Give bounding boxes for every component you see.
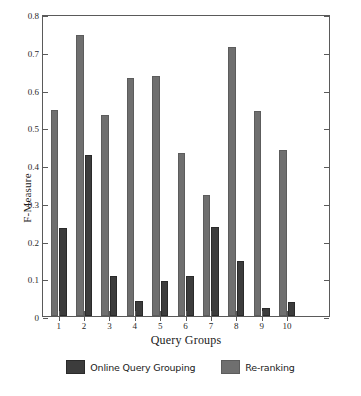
y-tick-label: 0.5 [28, 125, 39, 134]
y-tick-label: 0.3 [28, 200, 39, 209]
bar-online-query-grouping [110, 276, 118, 316]
bar-online-query-grouping [262, 308, 270, 316]
x-tick-label: 7 [209, 321, 214, 331]
x-tick-mark-top [211, 311, 212, 316]
x-tick-label: 2 [82, 321, 87, 331]
bar-re-ranking [279, 150, 287, 316]
y-tick-label: 0.4 [28, 163, 39, 172]
plot-area [43, 16, 329, 316]
plot-frame: 00.10.20.30.40.50.60.70.8 12345678910 [42, 15, 330, 317]
y-tick-label: 0.2 [28, 238, 39, 247]
bar-chart-figure: F-Measure 00.10.20.30.40.50.60.70.8 1234… [0, 0, 361, 396]
x-tick-mark-top [84, 311, 85, 316]
bar-re-ranking [127, 78, 135, 316]
legend-entry: Online Query Grouping [66, 360, 195, 374]
x-tick-mark-top [160, 311, 161, 316]
x-tick-mark-top [135, 311, 136, 316]
x-tick-label: 6 [183, 321, 188, 331]
legend-label: Re-ranking [245, 362, 294, 373]
x-tick-label: 10 [283, 321, 292, 331]
x-tick-label: 8 [234, 321, 239, 331]
x-tick-mark-top [236, 311, 237, 316]
legend-entry: Re-ranking [221, 360, 294, 374]
x-tick-label: 4 [133, 321, 138, 331]
legend-label: Online Query Grouping [90, 362, 195, 373]
y-tick-mark-right [324, 318, 329, 319]
y-tick-label: 0.1 [28, 276, 39, 285]
bar-online-query-grouping [288, 302, 296, 316]
y-tick-label: 0.6 [28, 87, 39, 96]
x-tick-mark-top [59, 311, 60, 316]
x-tick-mark-top [109, 311, 110, 316]
bar-re-ranking [76, 35, 84, 316]
bar-re-ranking [152, 76, 160, 316]
bar-online-query-grouping [211, 227, 219, 316]
y-tick-label: 0 [35, 314, 40, 323]
bar-re-ranking [228, 47, 236, 316]
x-tick-label: 1 [56, 321, 61, 331]
bar-online-query-grouping [59, 228, 67, 316]
x-tick-label: 9 [259, 321, 264, 331]
bar-online-query-grouping [186, 276, 194, 316]
legend-swatch-icon [221, 360, 240, 374]
bar-re-ranking [51, 110, 59, 316]
x-tick-mark-top [262, 311, 263, 316]
x-tick-mark-top [186, 311, 187, 316]
x-tick-label: 5 [158, 321, 163, 331]
bar-online-query-grouping [135, 301, 143, 316]
bar-re-ranking [178, 153, 186, 316]
chart-legend: Online Query GroupingRe-ranking [0, 360, 361, 374]
legend-swatch-icon [66, 360, 85, 374]
bar-re-ranking [101, 115, 109, 316]
bar-re-ranking [254, 111, 262, 316]
y-tick-label: 0.7 [28, 49, 39, 58]
y-tick-label: 0.8 [28, 12, 39, 21]
bar-online-query-grouping [237, 261, 245, 316]
y-axis-title: F-Measure [21, 173, 33, 222]
bar-online-query-grouping [161, 281, 169, 316]
x-axis-title: Query Groups [42, 333, 330, 348]
x-tick-mark-top [287, 311, 288, 316]
x-tick-label: 3 [107, 321, 112, 331]
bar-online-query-grouping [85, 155, 93, 316]
y-tick-mark [43, 318, 48, 319]
bar-re-ranking [203, 195, 211, 316]
